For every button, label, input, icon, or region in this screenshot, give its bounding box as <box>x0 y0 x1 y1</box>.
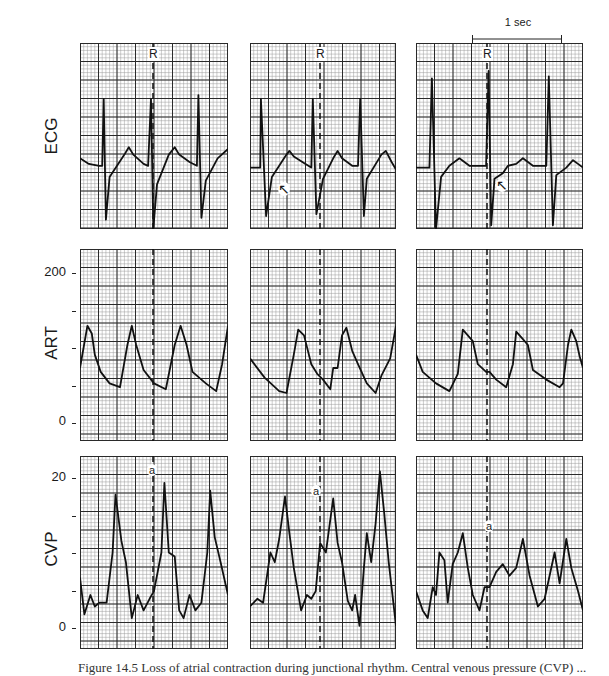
r-wave-label: R <box>148 47 159 61</box>
cvp-tick-mark <box>72 628 76 629</box>
arrow-icon: ↖ <box>496 178 508 192</box>
figure-caption: Figure 14.5 Loss of atrial contraction d… <box>78 660 586 676</box>
cvp-tick-mark <box>72 478 76 479</box>
a-wave-label: a <box>484 520 494 532</box>
panel-ecg-1: R <box>80 43 228 229</box>
art-tick-mark <box>72 348 76 349</box>
art-tick-mark <box>72 273 76 274</box>
time-scale-bar <box>472 29 562 37</box>
panel-art-1 <box>80 249 228 441</box>
panel-ecg-3: R↖ <box>416 43 583 229</box>
arrow-icon: ↖ <box>278 182 290 196</box>
cvp-tick-mark <box>72 553 76 554</box>
row-label-cvp: CVP <box>42 519 62 579</box>
art-tick-mark <box>72 386 76 387</box>
row-label-art: ART <box>42 313 62 373</box>
r-wave-label: R <box>482 47 493 61</box>
r-wave-label: R <box>315 47 326 61</box>
panel-cvp-1: a <box>80 456 228 649</box>
art-tick-0: 0 <box>26 413 66 428</box>
cvp-tick-mark <box>72 591 76 592</box>
scale-bar-label: 1 sec <box>488 16 548 28</box>
a-wave-label: a <box>311 485 321 497</box>
panel-ecg-2: R↖ <box>250 43 396 229</box>
panel-art-2 <box>250 249 396 441</box>
art-tick-mark <box>72 423 76 424</box>
cvp-tick-20: 20 <box>26 469 66 484</box>
panel-cvp-3: a <box>416 456 583 649</box>
art-tick-200: 200 <box>26 264 66 279</box>
cvp-tick-mark <box>72 516 76 517</box>
art-tick-mark <box>72 311 76 312</box>
a-wave-label: a <box>147 464 157 476</box>
panel-art-3 <box>416 249 583 441</box>
panel-cvp-2: a <box>250 456 396 649</box>
cvp-tick-0: 0 <box>26 619 66 634</box>
row-label-ecg: ECG <box>42 106 62 166</box>
